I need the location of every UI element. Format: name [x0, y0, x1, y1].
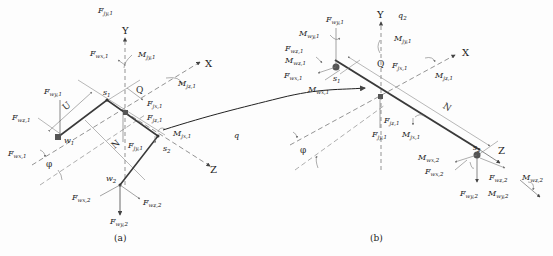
label-a-node-w2: w2 — [106, 175, 116, 185]
label-a-fwx2: Fwx,2 — [72, 194, 91, 204]
axis-a-z: Z — [210, 165, 217, 175]
axis-b-x: X — [462, 48, 469, 58]
dim-b-phi: φ — [300, 146, 306, 155]
label-b-mjx1: Mjx,1 — [402, 131, 420, 141]
label-b-node-s1: s1 — [333, 75, 341, 85]
label-b-q2: q2 — [398, 12, 407, 22]
label-b-fwz1: Fwz,1 — [285, 45, 303, 55]
label-a-mjy1: Mjy,1 — [138, 51, 156, 61]
dim-a-phi: φ — [46, 160, 52, 169]
label-b-mwy2: Mwy,2 — [488, 190, 509, 200]
axis-a-y: Y — [122, 26, 129, 36]
dim-a-q: Q — [136, 86, 143, 95]
label-a-fjy1-top: Fjy,1 — [98, 7, 113, 17]
caption-b: (b) — [370, 234, 383, 243]
diagram-lines — [0, 0, 553, 256]
label-b-mjx1-top: Mjz,1 — [435, 72, 453, 82]
label-b-fjz1: Fjz,1 — [384, 117, 399, 127]
label-a-q: q — [234, 132, 239, 140]
label-b-fwz2: Fwz,2 — [489, 174, 507, 184]
label-a-node-w1: w1 — [64, 137, 74, 147]
panel-b-geometry — [290, 22, 540, 197]
label-b-mwz2: Mwz,2 — [522, 174, 543, 184]
axis-b-z: Z — [498, 146, 505, 156]
label-b-fjy1: Fjy,1 — [372, 131, 387, 141]
label-a-mjz1: Mjz,1 — [178, 80, 196, 90]
label-b-fwx1: Fwx,1 — [284, 72, 303, 82]
diagram-root: Fjy,1 Y Fwx,1 Mjy,1 X Mjz,1 Fwy,1 s1 Q U… — [0, 0, 553, 256]
label-a-fwy1: Fwy,1 — [44, 88, 62, 98]
label-a-fjy1: Fjy,1 — [128, 142, 143, 152]
label-a-fjz1: Fjz,1 — [147, 114, 162, 124]
label-a-fwy2: Fwy,2 — [110, 218, 128, 228]
label-b-mjy1: Mjy,1 — [394, 35, 412, 45]
label-a-node-s2: s2 — [163, 145, 171, 155]
label-a-fjx1: Fjx,1 — [147, 100, 163, 110]
label-b-mwx2: Mwx,2 — [418, 154, 439, 164]
label-a-fwz2: Fwz,2 — [143, 199, 161, 209]
label-b-mwy1: Mwy,1 — [299, 30, 320, 40]
label-a-mjx1: Mjx,1 — [173, 130, 191, 140]
label-a-fwx1-left: Fwx,1 — [8, 150, 27, 160]
axis-a-x: X — [205, 59, 212, 69]
label-b-fwy1: Fwy,1 — [326, 16, 344, 26]
connector-curve — [163, 88, 365, 130]
label-b-fwy2: Fwy,2 — [460, 190, 478, 200]
label-a-fwz1: Fwz,1 — [12, 114, 30, 124]
label-b-fjx1: Fjx,1 — [392, 62, 408, 72]
label-b-node-s2: s2 — [473, 144, 481, 154]
caption-a: (a) — [114, 234, 126, 243]
label-a-fwx1-top: Fwx,1 — [90, 50, 109, 60]
label-b-mwz1: Mwz,1 — [285, 57, 306, 67]
label-b-mwx1: Mwx,1 — [308, 86, 329, 96]
label-b-fwx2: Fwx,2 — [425, 168, 444, 178]
axis-b-y: Y — [377, 10, 384, 20]
dim-b-q: Q — [377, 60, 384, 69]
panel-a-geometry — [32, 38, 210, 215]
label-a-node-s1: s1 — [103, 89, 111, 99]
